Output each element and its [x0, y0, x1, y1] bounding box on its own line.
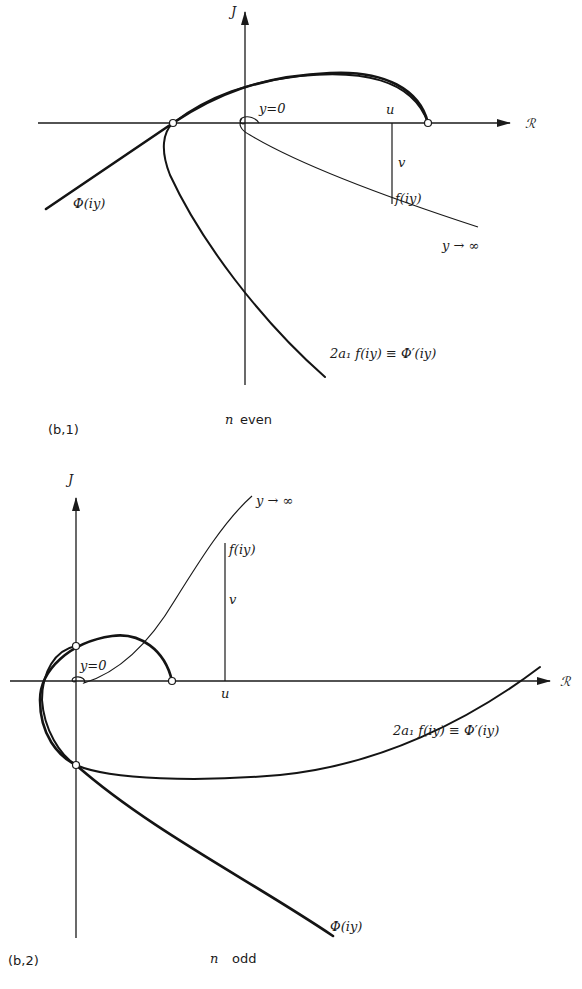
- point-right: [425, 120, 432, 127]
- label-real-axis: ℛ: [560, 674, 572, 689]
- curve-deriv: [42, 646, 540, 779]
- label-y0: y=0: [258, 101, 286, 116]
- label-phi: Φ(iy): [73, 196, 105, 211]
- caption-parity: odd: [232, 951, 256, 966]
- label-y-inf: y → ∞: [255, 493, 293, 508]
- caption-parity: even: [240, 412, 272, 427]
- curve-f: [240, 117, 478, 227]
- curve-phi: [46, 73, 428, 209]
- label-u: u: [386, 102, 394, 117]
- point-top: [73, 643, 80, 650]
- label-v: v: [229, 592, 237, 607]
- label-real-axis: ℛ: [525, 116, 537, 131]
- curve-deriv: [164, 74, 428, 377]
- point-bottom: [73, 762, 80, 769]
- label-y-inf: y → ∞: [441, 238, 479, 253]
- panel-b2: J ℛ y=0 u v f(iy) y → ∞ Φ(iy) 2a₁ f(iy) …: [8, 472, 572, 968]
- label-f: f(iy): [394, 191, 421, 206]
- label-u: u: [221, 686, 229, 701]
- figure-canvas: J ℛ y=0 u v f(iy) y → ∞ Φ(iy) 2a₁ f(iy) …: [0, 0, 582, 989]
- label-imag-axis: J: [228, 4, 237, 19]
- label-imag-axis: J: [65, 472, 74, 487]
- point-left: [170, 120, 177, 127]
- label-f: f(iy): [228, 542, 255, 557]
- caption-n: n: [225, 412, 233, 427]
- panel-id: (b,2): [8, 953, 39, 968]
- label-phi: Φ(iy): [330, 919, 362, 934]
- label-y0: y=0: [79, 658, 107, 673]
- label-deriv: 2a₁ f(iy) ≡ Φ′(iy): [329, 346, 436, 361]
- point-right: [169, 678, 176, 685]
- panel-b1: J ℛ y=0 u v f(iy) y → ∞ Φ(iy) 2a₁ f(iy) …: [38, 4, 537, 437]
- panel-id: (b,1): [48, 422, 79, 437]
- label-deriv: 2a₁ f(iy) ≡ Φ′(iy): [392, 723, 499, 738]
- caption-n: n: [210, 951, 218, 966]
- label-v: v: [398, 155, 406, 170]
